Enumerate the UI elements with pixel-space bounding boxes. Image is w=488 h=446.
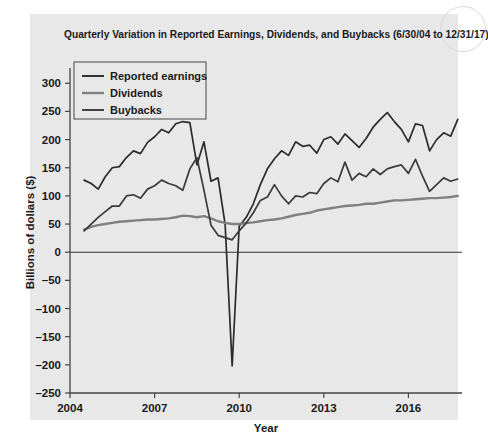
y-axis-tick-label: –250	[35, 387, 61, 399]
series-line-reported-earnings	[84, 113, 458, 366]
y-axis-tick-label: 200	[42, 134, 61, 146]
x-axis-tick-label: 2013	[311, 402, 337, 414]
y-axis-tick-label: 150	[42, 162, 61, 174]
line-chart: Quarterly Variation in Reported Earnings…	[0, 0, 488, 446]
y-axis-tick-label: 100	[42, 190, 61, 202]
x-axis-tick-label: 2004	[57, 402, 83, 414]
y-axis-tick-label: 250	[42, 105, 61, 117]
y-axis-tick-label: 300	[42, 77, 61, 89]
y-axis-tick-label: 50	[48, 218, 61, 230]
y-axis-tick-label: –150	[35, 331, 61, 343]
y-axis-tick-label: 0	[55, 246, 61, 258]
chart-title: Quarterly Variation in Reported Earnings…	[64, 29, 488, 40]
series-line-dividends	[84, 196, 458, 230]
legend-label-dividends: Dividends	[110, 87, 163, 99]
y-axis-tick-label: –50	[42, 274, 61, 286]
legend-label-buybacks: Buybacks	[110, 104, 162, 116]
legend-label-reported-earnings: Reported earnings	[110, 70, 207, 82]
x-axis-tick-label: 2010	[226, 402, 252, 414]
y-axis-tick-label: –200	[35, 359, 61, 371]
x-axis-tick-label: 2007	[142, 402, 168, 414]
x-axis-title: Year	[254, 422, 279, 434]
figure-container: Quarterly Variation in Reported Earnings…	[0, 0, 488, 446]
y-axis-tick-label: –100	[35, 303, 61, 315]
x-axis-tick-label: 2016	[396, 402, 422, 414]
series-line-buybacks	[84, 158, 458, 240]
y-axis-title: Billions of dollars ($)	[24, 175, 36, 289]
